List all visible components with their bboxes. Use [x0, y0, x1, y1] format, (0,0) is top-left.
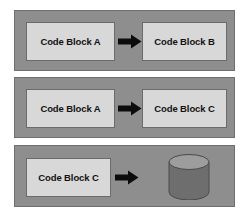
diagram-canvas: Code Block A Code Block B Code Block A C… [0, 0, 249, 219]
flow-panel-3: Code Block C [14, 145, 235, 207]
right-block-arrow-icon [118, 34, 142, 49]
code-block-box-target[interactable]: Code Block B [142, 22, 227, 61]
right-block-arrow-icon [118, 101, 142, 116]
code-block-box-target[interactable]: Code Block C [142, 89, 227, 128]
flow-panel-1: Code Block A Code Block B [14, 10, 235, 71]
database-cylinder-icon[interactable] [167, 154, 211, 200]
code-block-box-source[interactable]: Code Block A [26, 22, 115, 61]
code-block-box-source[interactable]: Code Block A [26, 89, 115, 128]
code-block-box-source[interactable]: Code Block C [26, 158, 111, 197]
right-block-arrow-icon [115, 170, 139, 185]
flow-panel-2: Code Block A Code Block C [14, 77, 235, 138]
